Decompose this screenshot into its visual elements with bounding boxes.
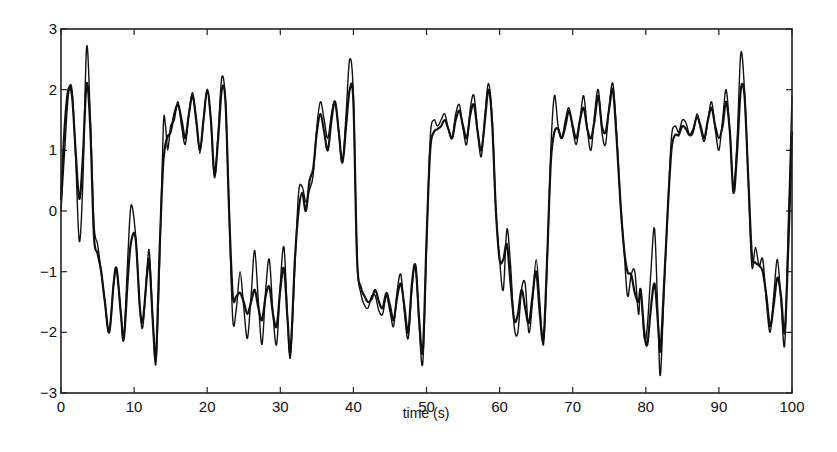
- x-tick-label: 90: [711, 398, 728, 415]
- y-tick-label: 0: [49, 202, 57, 219]
- x-axis-label: time (s): [403, 405, 450, 421]
- x-tick-label: 80: [637, 398, 654, 415]
- y-tick-label: 2: [49, 81, 57, 98]
- y-tick-labels: −3−2−10123: [40, 20, 57, 401]
- x-tick-label: 40: [345, 398, 362, 415]
- x-tick-label: 30: [272, 398, 289, 415]
- x-tick-label: 10: [126, 398, 143, 415]
- y-tick-label: −1: [40, 263, 57, 280]
- x-tick-label: 0: [57, 398, 65, 415]
- x-tick-label: 60: [491, 398, 508, 415]
- y-tick-label: 1: [49, 141, 57, 158]
- line-chart: 0102030405060708090100 −3−2−10123 time (…: [0, 0, 837, 452]
- y-tick-label: −3: [40, 384, 57, 401]
- x-tick-label: 20: [199, 398, 216, 415]
- x-tick-label: 70: [564, 398, 581, 415]
- y-tick-label: −2: [40, 323, 57, 340]
- y-tick-label: 3: [49, 20, 57, 37]
- x-tick-label: 100: [779, 398, 804, 415]
- series-group: [61, 46, 792, 376]
